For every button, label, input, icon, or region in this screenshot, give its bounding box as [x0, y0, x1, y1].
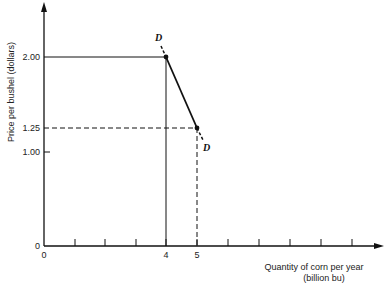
demand-label-bottom: D	[202, 142, 210, 153]
y-axis	[41, 2, 50, 246]
y-axis-arrow-icon	[41, 2, 47, 12]
reference-lines	[44, 57, 197, 246]
y-axis-title: Price per bushel (dollars)	[6, 42, 16, 142]
x-label-origin: 0	[41, 250, 46, 260]
point-5-1.25	[195, 126, 200, 131]
x-axis-unit: (billion bu)	[303, 273, 345, 283]
y-label-origin: 0	[35, 241, 40, 251]
x-axis-title: Quantity of corn per year	[264, 262, 363, 272]
x-axis	[44, 239, 384, 249]
point-4-2.00	[164, 55, 169, 60]
x-axis-arrow-icon	[374, 243, 384, 249]
demand-curve: D D	[154, 32, 210, 153]
x-label-4: 4	[163, 250, 168, 260]
demand-label-top: D	[154, 32, 162, 43]
x-ticks	[75, 239, 352, 246]
y-label-2.00: 2.00	[22, 52, 40, 62]
y-label-1.25: 1.25	[22, 123, 40, 133]
x-label-5: 5	[194, 250, 199, 260]
demand-chart: D D 2.00 1.25 1.00 0 0 4 5 Price per bus…	[0, 0, 385, 284]
y-label-1.00: 1.00	[22, 147, 40, 157]
